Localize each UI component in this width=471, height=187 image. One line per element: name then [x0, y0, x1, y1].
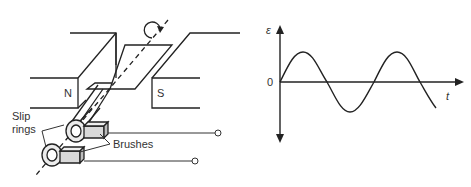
- terminal-circle-icon: [215, 130, 221, 136]
- figure: N S Slip rings Brushes ε 0 t: [0, 0, 471, 187]
- terminal-circle-icon: [192, 158, 198, 164]
- rotation-arrow-icon: [144, 22, 160, 38]
- slip-rings-label: Slip: [12, 110, 30, 122]
- emf-graph: [276, 25, 464, 143]
- y-axis-arrow-icon: [276, 134, 284, 143]
- coil: [70, 45, 172, 124]
- south-pole-label: S: [157, 87, 164, 99]
- y-axis-label: ε: [266, 24, 271, 36]
- north-pole-label: N: [64, 87, 72, 99]
- x-axis-label: t: [446, 90, 450, 102]
- south-magnet: [152, 33, 240, 108]
- brushes-label: Brushes: [113, 138, 154, 150]
- slip-rings-label: rings: [12, 123, 36, 135]
- origin-label: 0: [267, 76, 273, 88]
- y-axis-arrow-icon: [276, 25, 284, 34]
- x-axis-arrow-icon: [455, 78, 464, 86]
